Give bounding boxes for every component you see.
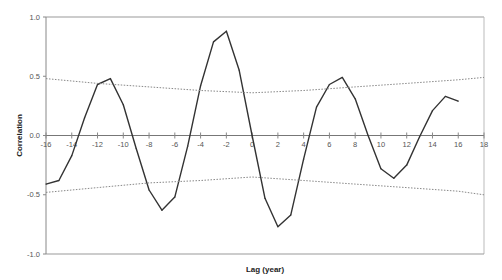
correlation-point bbox=[380, 168, 381, 169]
correlation-point bbox=[419, 136, 420, 137]
correlation-point bbox=[290, 214, 291, 215]
correlation-point bbox=[264, 198, 265, 199]
x-tick-label: 14 bbox=[428, 140, 436, 149]
y-tick-label: 0.5 bbox=[30, 72, 40, 81]
correlation-line bbox=[46, 31, 458, 227]
x-tick-label: 12 bbox=[403, 140, 411, 149]
correlation-point bbox=[355, 98, 356, 99]
correlation-point bbox=[58, 180, 59, 181]
correlation-point bbox=[161, 210, 162, 211]
plot-frame bbox=[46, 17, 484, 254]
correlation-point bbox=[174, 197, 175, 198]
x-tick-label: 16 bbox=[454, 140, 462, 149]
correlation-point bbox=[136, 148, 137, 149]
correlation-point bbox=[148, 189, 149, 190]
series-layer bbox=[45, 31, 484, 228]
x-tick-label: -8 bbox=[146, 140, 153, 149]
y-axis-ticks: 1.00.50.0-0.5-1.0 bbox=[27, 13, 46, 259]
correlation-point bbox=[252, 135, 253, 136]
correlation-point bbox=[97, 84, 98, 85]
correlation-point bbox=[110, 78, 111, 79]
x-tick-label: -16 bbox=[41, 140, 52, 149]
correlation-point bbox=[367, 135, 368, 136]
correlation-point bbox=[226, 31, 227, 32]
correlation-point bbox=[406, 165, 407, 166]
y-tick-label: 0.0 bbox=[30, 131, 40, 140]
y-axis-title: Correlation bbox=[15, 114, 24, 157]
correlation-point bbox=[393, 178, 394, 179]
correlation-point bbox=[329, 84, 330, 85]
x-tick-label: 6 bbox=[327, 140, 331, 149]
correlation-point bbox=[200, 85, 201, 86]
x-tick-label: 4 bbox=[302, 140, 306, 149]
correlation-point bbox=[71, 155, 72, 156]
x-tick-label: 18 bbox=[480, 140, 488, 149]
correlation-point bbox=[45, 183, 46, 184]
correlation-point bbox=[187, 146, 188, 147]
y-tick-label: -0.5 bbox=[27, 190, 40, 199]
correlation-point bbox=[277, 226, 278, 227]
y-tick-label: 1.0 bbox=[30, 13, 40, 22]
lower-confidence-line bbox=[46, 177, 484, 195]
x-tick-label: 10 bbox=[377, 140, 385, 149]
correlation-point bbox=[123, 104, 124, 105]
x-tick-label: 2 bbox=[276, 140, 280, 149]
x-tick-label: -6 bbox=[171, 140, 178, 149]
correlation-point bbox=[303, 159, 304, 160]
x-tick-label: -10 bbox=[118, 140, 129, 149]
correlation-point bbox=[84, 117, 85, 118]
correlation-point bbox=[445, 96, 446, 97]
correlation-point bbox=[342, 77, 343, 78]
correlation-point bbox=[239, 70, 240, 71]
correlogram-chart: 1.00.50.0-0.5-1.0 -16-14-12-10-8-6-4-202… bbox=[0, 0, 502, 280]
x-tick-label: -2 bbox=[223, 140, 230, 149]
x-axis-title: Lag (year) bbox=[246, 265, 285, 274]
correlation-point bbox=[316, 106, 317, 107]
correlation-point bbox=[432, 110, 433, 111]
y-tick-label: -1.0 bbox=[27, 250, 40, 259]
x-tick-label: -12 bbox=[92, 140, 103, 149]
x-tick-label: -4 bbox=[197, 140, 204, 149]
x-tick-label: 8 bbox=[353, 140, 357, 149]
correlation-point bbox=[213, 41, 214, 42]
correlation-point bbox=[458, 101, 459, 102]
